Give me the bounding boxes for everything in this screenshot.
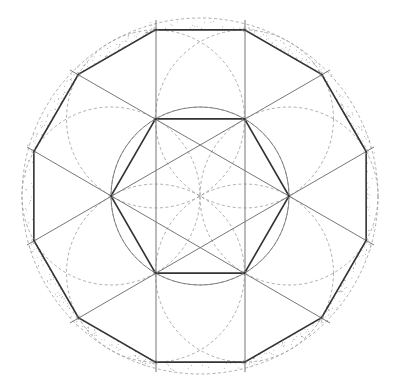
stipple-dot	[343, 284, 344, 285]
stipple-dot	[126, 41, 127, 42]
stipple-dot	[342, 291, 343, 292]
stipple-dot	[70, 79, 71, 80]
stipple-dot	[57, 296, 58, 297]
stipple-dot	[292, 341, 293, 342]
stipple-dot	[32, 186, 33, 187]
stipple-dot	[337, 307, 338, 308]
stipple-dot	[353, 271, 354, 272]
stipple-dot	[269, 352, 270, 353]
stipple-dot	[332, 308, 333, 309]
stipple-dot	[328, 315, 329, 316]
stipple-dot	[308, 331, 309, 332]
stipple-dot	[42, 126, 43, 127]
stipple-dot	[168, 365, 169, 366]
stipple-dot	[33, 135, 34, 136]
stipple-dot	[36, 136, 37, 137]
stipple-dot	[94, 56, 95, 57]
stipple-dot	[346, 287, 347, 288]
stipple-dot	[171, 24, 172, 25]
stipple-dot	[147, 31, 148, 32]
stipple-dot	[290, 45, 291, 46]
stipple-dot	[296, 58, 297, 59]
stipple-dot	[31, 183, 32, 184]
diagonal-construction-line	[27, 70, 330, 245]
stipple-dot	[125, 41, 126, 42]
stipple-dot	[367, 198, 368, 199]
stipple-dot	[307, 64, 308, 65]
stipple-dot	[339, 94, 340, 95]
stipple-dot	[294, 339, 295, 340]
stipple-dot	[301, 54, 302, 55]
stipple-dot	[369, 206, 370, 207]
stipple-dot	[301, 60, 302, 61]
stipple-dot	[61, 294, 62, 295]
stipple-dot	[284, 49, 285, 50]
stipple-dot	[280, 40, 281, 41]
stipple-dot	[28, 222, 29, 223]
stipple-dot	[254, 363, 255, 364]
stipple-dot	[46, 121, 47, 122]
stipple-dot	[272, 42, 273, 43]
stipple-dot	[124, 46, 125, 47]
stipple-dot	[361, 126, 362, 127]
stipple-dot	[145, 363, 146, 364]
stipple-dot	[208, 367, 209, 368]
stipple-dot	[86, 328, 87, 329]
stipple-dot	[146, 33, 147, 34]
stipple-dot	[28, 222, 29, 223]
stipple-dot	[306, 332, 307, 333]
stipple-dot	[299, 52, 300, 53]
stipple-dot	[369, 187, 370, 188]
stipple-dot	[119, 44, 120, 45]
stipple-dot	[167, 364, 168, 365]
stipple-dot	[44, 125, 45, 126]
stipple-dot	[357, 133, 358, 134]
stipple-dot	[35, 140, 36, 141]
stipple-dot	[296, 336, 297, 337]
stipple-dot	[143, 35, 144, 36]
stipple-dot	[118, 350, 119, 351]
stipple-dot	[288, 53, 289, 54]
stipple-dot	[47, 280, 48, 281]
stipple-dot	[349, 116, 350, 117]
stipple-dot	[128, 38, 129, 39]
stipple-dot	[284, 345, 285, 346]
stipple-dot	[138, 358, 139, 359]
stipple-dot	[373, 227, 374, 228]
stipple-dot	[63, 302, 64, 303]
stipple-dot	[109, 52, 110, 53]
stipple-dot	[139, 356, 140, 357]
dashed-construction-circles	[22, 18, 378, 374]
stipple-dot	[130, 356, 131, 357]
stipple-dot	[191, 365, 192, 366]
stipple-dot	[289, 49, 290, 50]
stipple-dot	[57, 104, 58, 105]
stipple-dot	[296, 57, 297, 58]
stipple-dot	[74, 74, 75, 75]
stipple-dot	[95, 332, 96, 333]
stipple-dot	[374, 152, 375, 153]
stipple-dot	[264, 32, 265, 33]
stipple-dot	[254, 31, 255, 32]
stipple-dot	[364, 136, 365, 137]
stipple-dot	[321, 69, 322, 70]
stipple-dot	[330, 314, 331, 315]
stipple-dot	[358, 133, 359, 134]
stipple-dot	[83, 65, 84, 66]
stipple-dot	[365, 258, 366, 259]
stipple-dot	[122, 41, 123, 42]
stipple-dot	[29, 203, 30, 204]
stipple-dot	[66, 81, 67, 82]
stipple-dot	[367, 163, 368, 164]
stipple-dot	[343, 106, 344, 107]
stipple-dot	[348, 115, 349, 116]
stipple-dot	[340, 95, 341, 96]
stipple-dot	[222, 26, 223, 27]
stipple-dot	[119, 46, 120, 47]
stipple-dot	[293, 339, 294, 340]
stipple-dot	[47, 114, 48, 115]
stipple-dot	[303, 337, 304, 338]
stipple-dot	[238, 368, 239, 369]
stipple-dot	[301, 336, 302, 337]
stipple-dot	[87, 62, 88, 63]
